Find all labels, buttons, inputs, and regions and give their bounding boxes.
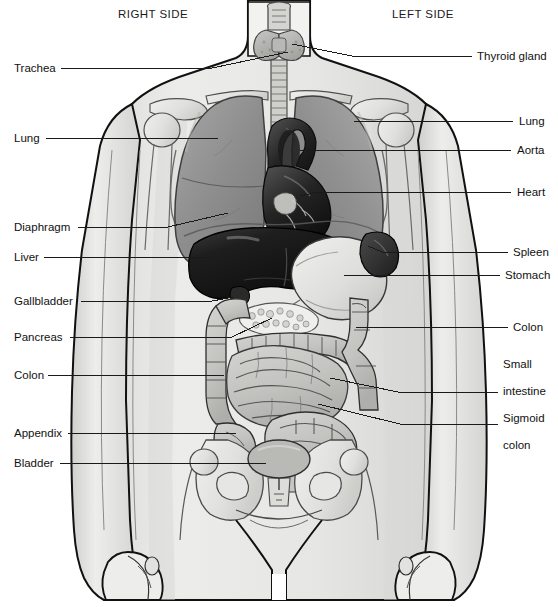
leader-thyroid-gland [292,44,472,56]
label-aorta[interactable]: Aorta [517,144,545,157]
anatomy-diagram-canvas: RIGHT SIDE LEFT SIDE Trachea Lung Diaphr… [0,0,558,607]
label-thyroid-gland[interactable]: Thyroid gland [477,50,547,63]
label-gallbladder[interactable]: Gallbladder [14,295,73,308]
human-torso-illustration [0,0,558,607]
label-stomach[interactable]: Stomach [505,269,550,282]
organ-trachea [268,2,291,128]
organ-spleen [360,232,399,277]
label-heart[interactable]: Heart [517,186,545,199]
label-small-intestine[interactable]: Small intestine [503,358,546,398]
label-spleen[interactable]: Spleen [513,246,549,259]
label-diaphragm[interactable]: Diaphragm [14,221,70,234]
label-lung-right[interactable]: Lung [14,132,40,145]
label-liver[interactable]: Liver [14,251,39,264]
hand-right [102,552,162,600]
label-sigmoid-colon-line-1: Sigmoid [503,412,545,425]
label-small-intestine-line-1: Small [503,358,546,371]
label-small-intestine-line-2: intestine [503,385,546,398]
label-colon-right[interactable]: Colon [513,321,543,334]
label-trachea[interactable]: Trachea [14,62,56,75]
label-appendix[interactable]: Appendix [14,427,62,440]
label-pancreas[interactable]: Pancreas [14,331,63,344]
label-sigmoid-colon-line-2: colon [503,439,545,452]
heading-left-side: LEFT SIDE [392,8,454,20]
label-sigmoid-colon[interactable]: Sigmoid colon [503,412,545,452]
hand-left [395,552,455,600]
heading-right-side: RIGHT SIDE [118,8,188,20]
label-lung-left[interactable]: Lung [519,115,545,128]
label-colon-left[interactable]: Colon [14,369,44,382]
label-bladder[interactable]: Bladder [14,457,54,470]
